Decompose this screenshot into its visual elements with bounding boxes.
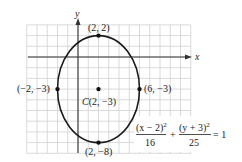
equation-term2-denominator: 25 bbox=[189, 137, 199, 148]
y-axis-arrow-icon bbox=[76, 18, 81, 25]
ellipse-diagram: x y (2, 2) (2, −8) (−2, −3) (6, −3) C(2,… bbox=[0, 0, 242, 162]
top-vertex-label: (2, 2) bbox=[88, 22, 110, 34]
bottom-vertex-point bbox=[96, 140, 100, 144]
right-vertex-point bbox=[137, 87, 141, 91]
center-label: C(2, −3) bbox=[82, 96, 116, 108]
center-label-coords: (2, −3) bbox=[89, 96, 116, 108]
left-vertex-label: (−2, −3) bbox=[17, 83, 50, 95]
y-axis-label: y bbox=[74, 8, 80, 19]
equation-term1-numerator: (x − 2)2 bbox=[136, 121, 167, 134]
equation-term2-numerator: (y + 3)2 bbox=[179, 121, 210, 134]
equation-term1-denominator: 16 bbox=[145, 137, 155, 148]
equation-plus: + bbox=[170, 129, 176, 140]
equation-equals: = 1 bbox=[213, 129, 226, 140]
bottom-vertex-label: (2, −8) bbox=[85, 146, 112, 158]
center-point bbox=[96, 87, 100, 91]
x-axis-label: x bbox=[194, 51, 200, 62]
left-vertex-point bbox=[55, 87, 59, 91]
top-vertex-point bbox=[96, 33, 100, 37]
right-vertex-label: (6, −3) bbox=[144, 83, 171, 95]
